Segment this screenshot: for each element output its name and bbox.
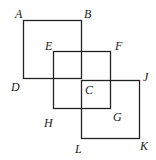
- vertex-label-e: E: [45, 40, 52, 52]
- vertex-label-f: F: [115, 40, 122, 52]
- geometry-figure: A B E F D C J H G L K: [0, 0, 156, 160]
- vertex-label-b: B: [84, 8, 91, 20]
- vertex-label-g: G: [113, 111, 122, 123]
- vertex-label-l: L: [75, 143, 82, 155]
- vertex-label-d: D: [11, 81, 20, 93]
- vertex-label-j: J: [143, 71, 148, 83]
- square-abcd: [24, 21, 82, 79]
- squares-drawing: [0, 0, 156, 160]
- vertex-label-c: C: [85, 84, 93, 96]
- vertex-label-h: H: [44, 117, 53, 129]
- vertex-label-k: K: [140, 140, 148, 152]
- vertex-label-a: A: [15, 8, 22, 20]
